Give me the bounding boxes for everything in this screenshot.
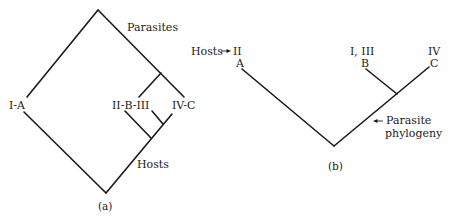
parasite-label-a: A: [235, 57, 245, 70]
panel-b-caption: (b): [328, 160, 343, 172]
panel-a: Parasites Hosts I-A II-B-III IV-C (a): [9, 10, 195, 212]
parasite-phylogeny-label-line2: phylogeny: [385, 127, 443, 140]
parasite-branch-inner: [139, 73, 161, 97]
phylogeny-branch-a: [242, 69, 334, 146]
arrow-left-icon: [373, 119, 383, 123]
phylogeny-branch-b: [366, 69, 397, 94]
host-branch-left: [24, 112, 106, 193]
panel-b: Hosts II A I, III B IV C Parasite phylog…: [191, 45, 443, 172]
leaf-label-ii-b-iii: II-B-III: [112, 99, 149, 112]
hosts-label-b: Hosts: [191, 45, 223, 58]
parasite-label-c: C: [430, 57, 438, 70]
parasite-phylogeny-label-line1: Parasite: [386, 114, 431, 127]
host-branch-inner-2: [152, 111, 163, 124]
parasites-label: Parasites: [127, 21, 178, 34]
hosts-label: Hosts: [137, 158, 169, 171]
leaf-label-i-a: I-A: [9, 99, 26, 112]
parasite-label-b: B: [361, 57, 369, 70]
parasite-branch-left: [27, 10, 98, 97]
host-branch-inner-1: [125, 111, 151, 138]
panel-a-caption: (a): [98, 200, 112, 212]
diagram-canvas: Parasites Hosts I-A II-B-III IV-C (a) Ho…: [0, 0, 457, 220]
leaf-label-iv-c: IV-C: [172, 99, 195, 112]
